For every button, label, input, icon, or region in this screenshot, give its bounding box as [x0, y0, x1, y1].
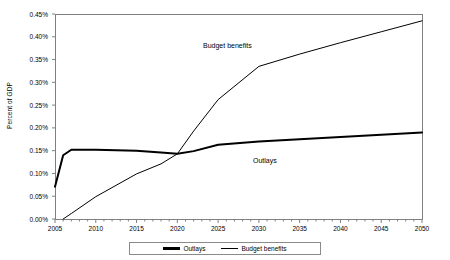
- chart-container: Percent of GDP 0.00%0.05%0.10%0.15%0.20%…: [0, 0, 450, 260]
- x-axis-tick-label: 2025: [198, 225, 238, 233]
- series-annotation-outlays: Outlays: [253, 157, 277, 165]
- legend-label-outlays: Outlays: [183, 245, 205, 253]
- x-axis-tick-label: 2040: [320, 225, 360, 233]
- x-axis-tick-label: 2030: [239, 225, 279, 233]
- legend-entry-outlays: Outlays: [163, 245, 205, 253]
- x-axis-tick-label: 2010: [76, 225, 116, 233]
- legend-line-swatch-outlays: [163, 247, 180, 249]
- legend-line-swatch-budget-benefits: [221, 248, 238, 249]
- series-annotation-budget-benefits: Budget benefits: [203, 42, 252, 50]
- chart-legend: Outlays Budget benefits: [129, 242, 321, 255]
- legend-label-budget-benefits: Budget benefits: [241, 245, 286, 253]
- x-axis-tick-label: 2020: [157, 225, 197, 233]
- x-axis-tick-labels: 2005201020152020202520302035204020452050: [0, 0, 450, 260]
- x-axis-tick-label: 2045: [361, 225, 401, 233]
- x-axis-tick-label: 2035: [280, 225, 320, 233]
- x-axis-tick-label: 2005: [35, 225, 75, 233]
- legend-entry-budget-benefits: Budget benefits: [221, 245, 286, 253]
- x-axis-tick-label: 2015: [117, 225, 157, 233]
- x-axis-tick-label: 2050: [402, 225, 442, 233]
